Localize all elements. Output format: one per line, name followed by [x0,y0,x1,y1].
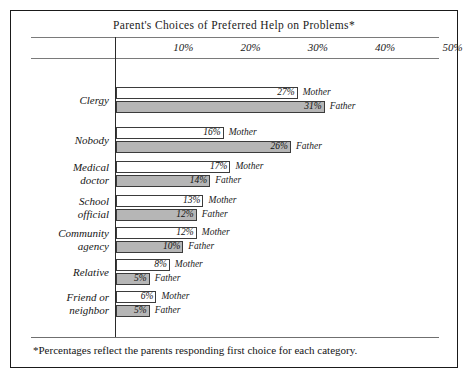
category-label-line: neighbor [0,304,109,317]
bar-value-label: 27% [277,86,294,99]
bar-row: 17%Mother [116,161,230,173]
category-label-line: doctor [0,174,109,187]
category-label-line: Relative [0,266,109,279]
category-label-line: Clergy [0,94,109,107]
series-label-mother: Mother [303,86,331,99]
series-label-father: Father [215,174,241,187]
plot-area: Clergy27%Mother31%FatherNobody16%Mother2… [31,59,439,337]
x-tick-label: 30% [288,41,348,53]
footnote-divider [31,337,439,338]
bar-value-label: 5% [134,304,147,317]
category-label-line: official [0,208,109,221]
series-label-mother: Mother [175,258,203,271]
series-label-father: Father [155,272,181,285]
bar-row: 10%Father [116,241,183,253]
bar-value-label: 8% [154,258,167,271]
category-label: Clergy [0,94,109,107]
series-label-father: Father [202,208,228,221]
series-label-mother: Mother [208,194,236,207]
bar-group: Medicaldoctor17%Mother14%Father [31,161,439,189]
bar-row: 26%Father [116,141,291,153]
series-label-father: Father [155,304,181,317]
bar-row: 16%Mother [116,127,224,139]
bar-value-label: 12% [176,208,193,221]
category-label: Nobody [0,134,109,147]
category-label: Communityagency [0,227,109,252]
bar-row: 31%Father [116,101,325,113]
bar-value-label: 14% [190,174,207,187]
series-label-mother: Mother [161,290,189,303]
bar-group: Schoolofficial13%Mother12%Father [31,195,439,223]
category-label: Friend orneighbor [0,291,109,316]
category-label-line: Friend or [0,291,109,304]
x-axis-header: 10%20%30%40%50% [31,37,439,59]
bar-value-label: 26% [271,140,288,153]
series-label-mother: Mother [229,126,257,139]
bar-father [116,101,325,113]
bar-value-label: 17% [210,160,227,173]
category-label-line: Community [0,227,109,240]
series-label-father: Father [296,140,322,153]
bar-row: 6%Mother [116,291,156,303]
category-label-line: Nobody [0,134,109,147]
bar-group: Clergy27%Mother31%Father [31,87,439,115]
bar-row: 5%Father [116,305,150,317]
bar-value-label: 5% [134,272,147,285]
bar-mother [116,87,298,99]
x-tick-label: 50% [423,41,470,53]
x-tick-label: 10% [153,41,213,53]
x-tick-label: 40% [355,41,415,53]
bar-value-label: 16% [203,126,220,139]
category-label: Relative [0,266,109,279]
bar-value-label: 31% [304,100,321,113]
bar-row: 12%Mother [116,227,197,239]
bar-row: 27%Mother [116,87,298,99]
category-label-line: Medical [0,161,109,174]
category-label-line: agency [0,240,109,253]
series-label-mother: Mother [202,226,230,239]
bar-father [116,141,291,153]
category-label-line: School [0,195,109,208]
bar-row: 14%Father [116,175,210,187]
category-label: Medicaldoctor [0,161,109,186]
bar-value-label: 13% [183,194,200,207]
chart-figure: Parent's Choices of Preferred Help on Pr… [10,10,458,368]
footnote-text: *Percentages reflect the parents respond… [33,344,437,356]
bar-row: 13%Mother [116,195,203,207]
bar-group: Friend orneighbor6%Mother5%Father [31,291,439,319]
bar-group: Nobody16%Mother26%Father [31,127,439,155]
bar-value-label: 6% [141,290,154,303]
bar-row: 12%Father [116,209,197,221]
series-label-mother: Mother [235,160,263,173]
bar-row: 5%Father [116,273,150,285]
x-tick-label: 20% [221,41,281,53]
bar-value-label: 10% [163,240,180,253]
category-label: Schoolofficial [0,195,109,220]
chart-title: Parent's Choices of Preferred Help on Pr… [11,19,457,31]
bar-value-label: 12% [176,226,193,239]
bar-group: Communityagency12%Mother10%Father [31,227,439,255]
series-label-father: Father [188,240,214,253]
bar-group: Relative8%Mother5%Father [31,259,439,287]
series-label-father: Father [330,100,356,113]
bar-row: 8%Mother [116,259,170,271]
